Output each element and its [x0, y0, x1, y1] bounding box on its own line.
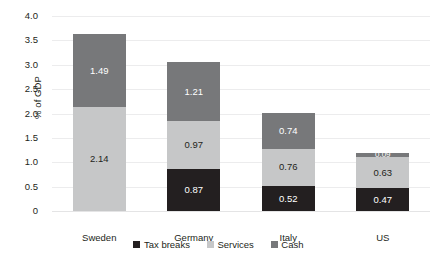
y-axis-tick-label: 3.5 — [0, 35, 38, 45]
y-axis-tick-label: 0.5 — [0, 182, 38, 192]
y-axis-tick-label: 4.0 — [0, 11, 38, 21]
bar-segment[interactable]: 0.87 — [167, 169, 220, 211]
legend-label: Cash — [281, 240, 303, 250]
legend-item[interactable]: Services — [207, 240, 254, 250]
bar-segment-value: 0.63 — [374, 168, 393, 178]
y-axis-tick-label: 1.5 — [0, 133, 38, 143]
bar-stack: 0.090.630.47 — [356, 153, 409, 211]
bar-segment-value: 0.52 — [279, 194, 298, 204]
y-axis-tick-label: 3.0 — [0, 60, 38, 70]
bar-group[interactable]: 1.210.970.87 — [167, 16, 220, 211]
bar-segment[interactable]: 1.21 — [167, 62, 220, 121]
legend-label: Tax breaks — [144, 240, 190, 250]
bar-segment[interactable]: 0.52 — [262, 186, 315, 211]
legend-label: Services — [217, 240, 253, 250]
bar-group[interactable]: 0.740.760.52 — [262, 16, 315, 211]
bar-group[interactable]: 1.492.14 — [73, 16, 126, 211]
bar-stack: 1.492.14 — [73, 34, 126, 211]
bar-group[interactable]: 0.090.630.47 — [356, 16, 409, 211]
bar-segment[interactable]: 0.47 — [356, 188, 409, 211]
bar-segment[interactable]: 1.49 — [73, 34, 126, 107]
bar-stack: 1.210.970.87 — [167, 62, 220, 211]
bar-segment-value: 0.76 — [279, 162, 298, 172]
bar-segment-value: 1.21 — [185, 87, 204, 97]
y-axis-tick-label: 2.5 — [0, 84, 38, 94]
y-axis-title: % of GDP — [32, 63, 43, 133]
bar-segment-value: 0.87 — [185, 185, 204, 195]
y-axis-tick-label: 0 — [0, 206, 38, 216]
legend-swatch-icon — [133, 241, 140, 248]
bar-stack: 0.740.760.52 — [262, 113, 315, 211]
legend-swatch-icon — [207, 241, 214, 248]
y-axis-tick-label: 2.0 — [0, 109, 38, 119]
bars-layer: 1.492.14Sweden1.210.970.87Germany0.740.7… — [52, 16, 430, 211]
bar-segment-value: 0.47 — [374, 195, 393, 205]
chart-legend: Tax breaksServicesCash — [0, 240, 437, 250]
bar-segment[interactable]: 2.14 — [73, 107, 126, 211]
bar-segment[interactable]: 0.97 — [167, 121, 220, 168]
gridline — [52, 211, 430, 212]
bar-segment[interactable]: 0.76 — [262, 149, 315, 186]
y-axis-tick-label: 1.0 — [0, 157, 38, 167]
bar-segment[interactable]: 0.63 — [356, 157, 409, 188]
bar-segment-value: 2.14 — [90, 154, 109, 164]
bar-segment-value: 1.49 — [90, 66, 109, 76]
bar-segment-value: 0.74 — [279, 126, 298, 136]
stacked-bar-chart: % of GDP 4.03.53.02.52.01.51.00.50 1.492… — [0, 0, 437, 267]
legend-item[interactable]: Tax breaks — [133, 240, 189, 250]
bar-segment[interactable]: 0.74 — [262, 113, 315, 149]
legend-item[interactable]: Cash — [271, 240, 304, 250]
bar-segment-value: 0.97 — [185, 140, 204, 150]
legend-swatch-icon — [271, 241, 278, 248]
